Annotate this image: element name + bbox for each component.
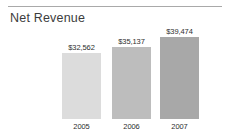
net-revenue-chart-card: Net Revenue $32,562 2005 $35,137 2006 $3…: [0, 0, 229, 139]
category-label-2007: 2007: [171, 122, 187, 131]
plot-area: $32,562 2005 $35,137 2006 $39,474 2007: [0, 0, 229, 139]
bar-2006[interactable]: [112, 47, 151, 119]
bar-group-2005: $32,562 2005: [62, 53, 101, 119]
bar-2005[interactable]: [62, 53, 101, 119]
bar-2007[interactable]: [160, 37, 199, 119]
bar-group-2006: $35,137 2006: [112, 47, 151, 119]
bar-group-2007: $39,474 2007: [160, 37, 199, 119]
category-label-2005: 2005: [73, 122, 89, 131]
category-label-2006: 2006: [123, 122, 139, 131]
bar-value-2007: $39,474: [166, 27, 192, 36]
bar-value-2006: $35,137: [118, 37, 144, 46]
bar-value-2005: $32,562: [68, 43, 94, 52]
